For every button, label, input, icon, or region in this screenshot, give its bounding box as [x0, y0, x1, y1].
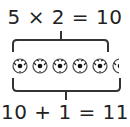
soccer-balls-row [13, 59, 127, 73]
soccer-ball-partial-icon [113, 59, 127, 73]
soccer-ball-icon [53, 59, 67, 73]
soccer-ball-icon [13, 59, 27, 73]
soccer-ball-icon [93, 59, 107, 73]
bottom-bracket [13, 78, 120, 100]
soccer-ball-icon [33, 59, 47, 73]
top-bracket [13, 31, 108, 52]
soccer-ball-icon [73, 59, 87, 73]
addition-equation: 10 + 1 = 11 [0, 101, 130, 123]
